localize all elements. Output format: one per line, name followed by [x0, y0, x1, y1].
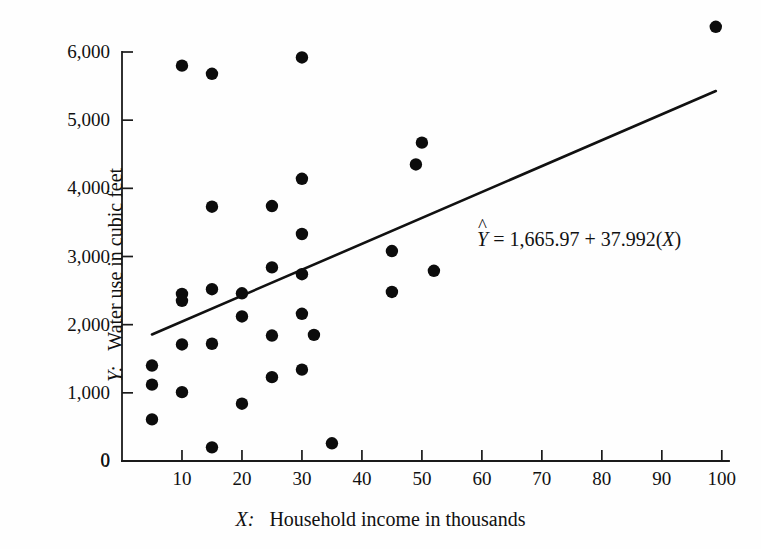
equation-closing-paren: ): [675, 228, 682, 250]
data-point: [176, 59, 188, 71]
data-point: [416, 136, 428, 148]
data-point: [410, 158, 422, 170]
x-tick-label-10: 10: [172, 468, 191, 490]
data-point: [206, 441, 218, 453]
y-axis-title: Y: Water use in cubic feet: [104, 167, 127, 381]
regression-line-group: [152, 91, 716, 334]
data-point: [176, 295, 188, 307]
x-tick-label-80: 80: [592, 468, 611, 490]
data-point: [266, 261, 278, 273]
data-point: [236, 398, 248, 410]
equation-x-letter: X: [662, 228, 674, 250]
x-axis-variable: X:: [236, 508, 255, 530]
x-axis-title: X: Household income in thousands: [0, 508, 761, 531]
data-point: [710, 21, 722, 33]
data-point: [296, 268, 308, 280]
data-point: [296, 228, 308, 240]
x-tick-label-60: 60: [472, 468, 491, 490]
y-axis-title-text: Water use in cubic feet: [104, 167, 126, 350]
data-point: [206, 201, 218, 213]
regression-line: [152, 91, 716, 334]
y-tick-label-5000: 5,000: [67, 109, 110, 131]
x-tick-label-40: 40: [352, 468, 371, 490]
x-tick-label-20: 20: [232, 468, 251, 490]
data-point: [326, 437, 338, 449]
data-point: [386, 245, 398, 257]
x-tick-label-90: 90: [652, 468, 671, 490]
scatter-plot-figure: 01,0002,0003,0004,0005,0006,000 01020304…: [0, 0, 761, 549]
data-point: [146, 359, 158, 371]
data-point: [236, 310, 248, 322]
x-tick-label-0: 0: [101, 449, 111, 471]
data-point: [206, 68, 218, 80]
x-tick-marks: [182, 450, 722, 461]
x-tick-label-100: 100: [708, 468, 737, 490]
data-point: [266, 371, 278, 383]
y-axis-variable: Y:: [104, 365, 126, 381]
data-point: [146, 413, 158, 425]
data-point: [428, 265, 440, 277]
equation-body: = 1,665.97 + 37.992(: [488, 228, 662, 250]
data-point: [176, 386, 188, 398]
equation-yhat: ^Y: [477, 228, 488, 251]
data-point: [296, 363, 308, 375]
data-point: [296, 308, 308, 320]
data-point: [206, 283, 218, 295]
x-tick-label-50: 50: [412, 468, 431, 490]
data-point: [296, 173, 308, 185]
x-tick-label-30: 30: [292, 468, 311, 490]
regression-equation-annotation: ^Y = 1,665.97 + 37.992(X): [477, 228, 681, 251]
y-tick-label-1000: 1,000: [67, 382, 110, 404]
data-point: [206, 338, 218, 350]
data-point: [308, 329, 320, 341]
hat-accent-icon: ^: [478, 216, 487, 235]
x-tick-label-70: 70: [532, 468, 551, 490]
axes-group: [122, 52, 729, 461]
data-point: [146, 378, 158, 390]
x-axis-title-text: Household income in thousands: [269, 508, 525, 530]
data-point: [266, 329, 278, 341]
y-tick-label-6000: 6,000: [67, 41, 110, 63]
data-point: [266, 200, 278, 212]
data-point: [296, 51, 308, 63]
data-point: [176, 338, 188, 350]
data-point: [236, 287, 248, 299]
data-point: [386, 286, 398, 298]
